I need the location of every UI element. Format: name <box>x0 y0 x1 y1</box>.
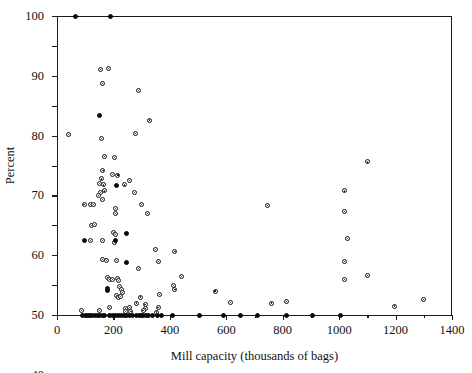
data-point <box>107 305 112 310</box>
data-point <box>91 202 96 207</box>
data-point <box>100 197 105 202</box>
data-point <box>172 287 177 292</box>
data-point <box>310 313 315 318</box>
x-tick-label-200: 200 <box>104 324 123 337</box>
data-point <box>97 113 102 118</box>
data-point <box>238 313 243 318</box>
y-tick-label-70: 70 <box>32 189 45 202</box>
data-point <box>104 258 109 263</box>
data-point <box>101 182 106 187</box>
data-point <box>124 231 129 236</box>
data-point <box>228 300 233 305</box>
data-point <box>157 292 162 297</box>
data-point <box>156 305 161 310</box>
data-point <box>213 289 218 294</box>
x-tick-label-0: 0 <box>54 324 60 337</box>
data-point <box>88 238 93 243</box>
data-point <box>365 273 370 278</box>
data-point <box>122 182 127 187</box>
x-tick-1200 <box>396 315 397 320</box>
y-axis-title: Percent <box>4 16 18 315</box>
y-tick-label-90: 90 <box>32 70 45 83</box>
data-point <box>342 259 347 264</box>
data-point <box>147 118 152 123</box>
data-point <box>221 313 226 318</box>
data-point <box>118 294 123 299</box>
data-point <box>105 288 110 293</box>
y-tick-label-40: 40 <box>32 369 45 373</box>
data-point <box>265 203 270 208</box>
data-point <box>284 313 289 318</box>
data-point <box>112 155 117 160</box>
x-tick-0 <box>57 315 58 320</box>
data-point <box>342 277 347 282</box>
data-point <box>124 260 129 265</box>
data-point <box>156 259 161 264</box>
scatter-chart-figure: Percent 0102030405060708090100 020040060… <box>0 0 472 373</box>
data-point <box>100 81 105 86</box>
y-tick-label-80: 80 <box>32 129 45 142</box>
data-point <box>114 258 119 263</box>
data-point <box>145 211 150 216</box>
x-tick-label-800: 800 <box>273 324 292 337</box>
data-point <box>110 172 115 177</box>
data-point <box>170 313 175 318</box>
plot-frame: 0102030405060708090100 02004006008001000… <box>57 16 452 315</box>
data-point <box>73 14 78 19</box>
data-point <box>284 299 289 304</box>
data-point <box>113 232 118 237</box>
x-tick-minor-1100 <box>367 315 368 318</box>
y-tick-label-60: 60 <box>32 249 45 262</box>
data-point <box>133 131 138 136</box>
data-point <box>116 278 121 283</box>
x-tick-label-400: 400 <box>160 324 179 337</box>
data-point <box>132 190 137 195</box>
data-point <box>136 88 141 93</box>
data-point <box>114 183 119 188</box>
data-point <box>139 202 144 207</box>
data-point <box>92 222 97 227</box>
data-point <box>136 266 141 271</box>
x-tick-label-1000: 1000 <box>327 324 352 337</box>
y-axis-title-text: Percent <box>4 147 19 184</box>
data-point <box>99 136 104 141</box>
x-axis-title: Mill capacity (thousands of bags) <box>57 349 452 364</box>
x-tick-1400 <box>452 315 453 320</box>
data-points-layer <box>57 16 452 315</box>
data-point <box>179 274 184 279</box>
data-point <box>392 304 397 309</box>
data-point <box>159 313 164 318</box>
data-point <box>134 301 139 306</box>
data-point <box>106 66 111 71</box>
y-tick-label-100: 100 <box>25 10 44 23</box>
data-point <box>345 236 350 241</box>
data-point <box>113 238 118 243</box>
data-point <box>255 313 260 318</box>
data-point <box>138 295 143 300</box>
data-point <box>197 313 202 318</box>
data-point <box>338 313 343 318</box>
x-tick-label-1200: 1200 <box>383 324 408 337</box>
data-point <box>66 132 71 137</box>
data-point <box>421 297 426 302</box>
y-tick-label-50: 50 <box>32 309 45 322</box>
data-point <box>342 209 347 214</box>
data-point <box>269 301 274 306</box>
x-tick-label-600: 600 <box>217 324 236 337</box>
data-point <box>115 173 120 178</box>
data-point <box>82 238 87 243</box>
data-point <box>82 202 87 207</box>
x-tick-minor-1300 <box>424 315 425 318</box>
x-tick-label-1400: 1400 <box>440 324 465 337</box>
data-point <box>365 159 370 164</box>
data-point <box>172 249 177 254</box>
data-point <box>113 211 118 216</box>
data-point <box>342 188 347 193</box>
data-point <box>127 178 132 183</box>
data-point <box>108 14 113 19</box>
data-point <box>79 308 84 313</box>
data-point <box>153 247 158 252</box>
data-point <box>100 168 105 173</box>
data-point <box>98 67 103 72</box>
data-point <box>100 238 105 243</box>
